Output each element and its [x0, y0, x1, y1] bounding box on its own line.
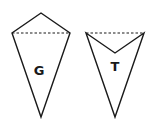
dart-label: T — [111, 59, 120, 74]
kite-label: G — [34, 63, 45, 78]
kite-shape-g: G — [12, 13, 70, 117]
dart-shape-t: T — [86, 33, 144, 117]
kite-dart-diagram: G T — [0, 0, 153, 126]
